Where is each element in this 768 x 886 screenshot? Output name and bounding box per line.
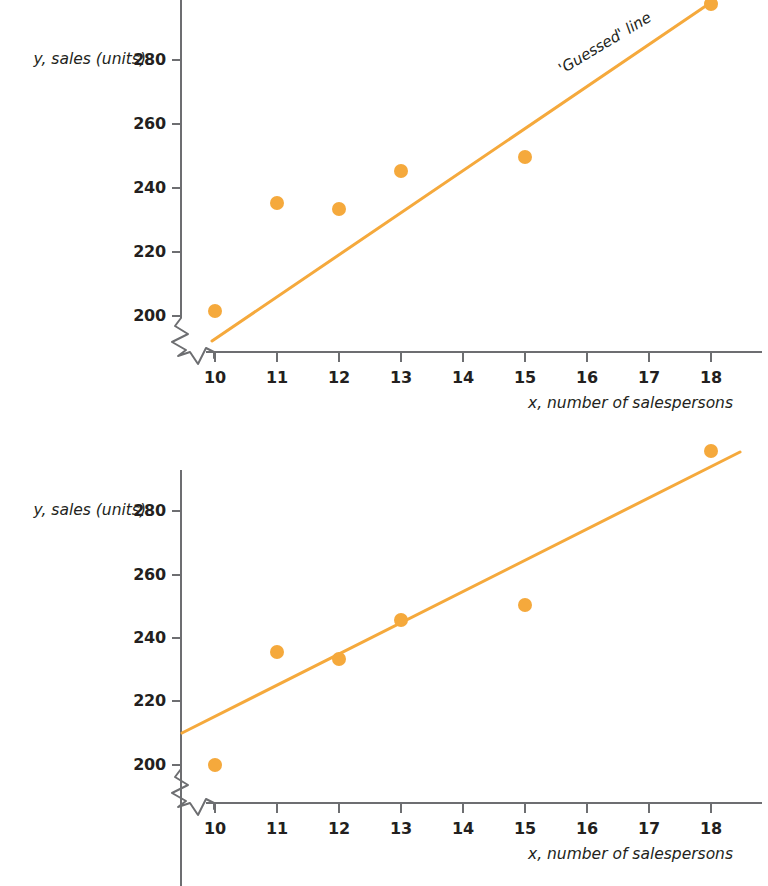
x-tick-label-11: 11 (260, 819, 294, 838)
figure-page: y, sales (units) 280 260 240 220 200 10 … (0, 0, 768, 886)
data-point (394, 164, 408, 178)
y-tick-label-200: 200 (120, 306, 166, 325)
guessed-trend-line (212, 0, 716, 341)
x-tick-label-18: 18 (694, 819, 728, 838)
y-tick-label-240: 240 (120, 178, 166, 197)
x-tick-label-10: 10 (198, 368, 232, 387)
y-tick-label-260: 260 (120, 565, 166, 584)
x-tick-label-12: 12 (322, 368, 356, 387)
data-point (208, 304, 222, 318)
regression-line-plot-area (0, 420, 768, 886)
x-axis-title: x, number of salespersons (528, 394, 733, 412)
y-tick-label-280: 280 (120, 50, 166, 69)
data-point (518, 598, 532, 612)
data-point (518, 150, 532, 164)
regression-line-chart: y, sales (units) 280 260 240 220 200 10 … (0, 420, 768, 886)
y-tick-label-280: 280 (120, 501, 166, 520)
x-tick-label-15: 15 (508, 819, 542, 838)
x-tick-label-12: 12 (322, 819, 356, 838)
x-tick-label-16: 16 (570, 368, 604, 387)
axis-break-symbol (172, 318, 214, 364)
x-tick-label-18: 18 (694, 368, 728, 387)
data-point (394, 613, 408, 627)
y-tick-label-220: 220 (120, 242, 166, 261)
data-point (270, 196, 284, 210)
x-tick-label-14: 14 (446, 819, 480, 838)
y-tick-label-200: 200 (120, 755, 166, 774)
guessed-line-chart: y, sales (units) 280 260 240 220 200 10 … (0, 0, 768, 443)
x-tick-label-14: 14 (446, 368, 480, 387)
axis-break-symbol (172, 769, 214, 815)
regression-trend-line (182, 452, 740, 733)
x-tick-label-13: 13 (384, 368, 418, 387)
y-tick-label-240: 240 (120, 628, 166, 647)
x-tick-label-13: 13 (384, 819, 418, 838)
x-tick-label-15: 15 (508, 368, 542, 387)
data-point (332, 652, 346, 666)
data-point (332, 202, 346, 216)
x-tick-label-17: 17 (632, 368, 666, 387)
data-point (208, 758, 222, 772)
y-tick-label-220: 220 (120, 691, 166, 710)
x-tick-label-11: 11 (260, 368, 294, 387)
x-tick-label-10: 10 (198, 819, 232, 838)
data-point (704, 444, 718, 458)
y-tick-label-260: 260 (120, 114, 166, 133)
x-tick-label-17: 17 (632, 819, 666, 838)
data-point (704, 0, 718, 11)
x-tick-label-16: 16 (570, 819, 604, 838)
x-axis-title: x, number of salespersons (528, 845, 733, 863)
data-point (270, 645, 284, 659)
